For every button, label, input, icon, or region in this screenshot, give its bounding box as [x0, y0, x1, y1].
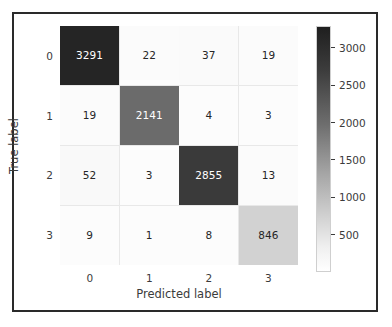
colorbar-tick-mark-icon — [331, 159, 335, 160]
matrix-cell-1-3: 3 — [239, 86, 298, 145]
matrix-cell-3-0: 9 — [60, 206, 119, 265]
colorbar-tick-1000: 1000 — [331, 191, 366, 203]
colorbar-tick-3000: 3000 — [331, 42, 366, 54]
colorbar-tick-label: 3000 — [339, 42, 366, 54]
colorbar-tick-2500: 2500 — [331, 79, 366, 91]
x-tick-label-1: 1 — [129, 272, 169, 284]
matrix-cell-0-1: 22 — [120, 26, 179, 85]
matrix-cell-1-0: 19 — [60, 86, 119, 145]
matrix-cell-2-2: 2855 — [179, 146, 238, 205]
matrix-cell-1-2: 4 — [179, 86, 238, 145]
x-tick-label-3: 3 — [248, 272, 288, 284]
matrix-cell-3-2: 8 — [179, 206, 238, 265]
x-axis-label: Predicted label — [60, 287, 298, 301]
y-axis-label: True label — [7, 118, 21, 174]
colorbar-tick-label: 1000 — [339, 191, 366, 203]
colorbar-tick-mark-icon — [331, 47, 335, 48]
colorbar-tick-mark-icon — [331, 197, 335, 198]
matrix-cell-2-3: 13 — [239, 146, 298, 205]
y-tick-label-3: 3 — [13, 229, 53, 241]
matrix-cell-0-3: 19 — [239, 26, 298, 85]
colorbar-tick-1500: 1500 — [331, 154, 366, 166]
colorbar: 30002500200015001000500 — [316, 26, 331, 272]
confusion-matrix-grid: 329122371919214143523285513918846 — [60, 26, 298, 265]
matrix-cell-1-1: 2141 — [120, 86, 179, 145]
heatmap-axes: 329122371919214143523285513918846 0 1 2 … — [60, 26, 298, 265]
colorbar-tick-500: 500 — [331, 229, 359, 241]
colorbar-tick-label: 1500 — [339, 154, 366, 166]
x-tick-label-2: 2 — [189, 272, 229, 284]
y-tick-label-0: 0 — [13, 50, 53, 62]
matrix-cell-3-3: 846 — [239, 206, 298, 265]
matrix-cell-2-0: 52 — [60, 146, 119, 205]
matrix-cell-3-1: 1 — [120, 206, 179, 265]
matrix-cell-0-0: 3291 — [60, 26, 119, 85]
colorbar-tick-mark-icon — [331, 234, 335, 235]
colorbar-tick-mark-icon — [331, 85, 335, 86]
colorbar-gradient — [316, 26, 331, 272]
matrix-cell-0-2: 37 — [179, 26, 238, 85]
colorbar-tick-mark-icon — [331, 122, 335, 123]
colorbar-tick-label: 500 — [339, 229, 359, 241]
matrix-cell-2-1: 3 — [120, 146, 179, 205]
colorbar-tick-2000: 2000 — [331, 117, 366, 129]
colorbar-tick-label: 2000 — [339, 117, 366, 129]
confusion-matrix-figure: 329122371919214143523285513918846 0 1 2 … — [0, 0, 392, 327]
colorbar-tick-label: 2500 — [339, 79, 366, 91]
x-tick-label-0: 0 — [70, 272, 110, 284]
